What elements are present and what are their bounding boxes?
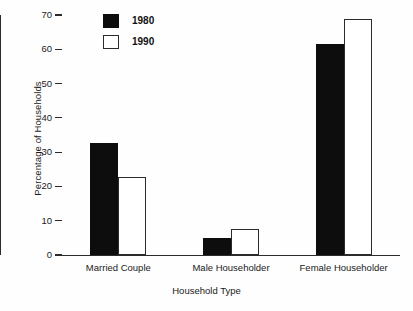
legend-item-1980: 1980 — [103, 12, 154, 29]
bar-1990-male-householder — [231, 229, 259, 255]
y-axis-tick-label: 30 — [16, 146, 52, 157]
legend-item-1990: 1990 — [103, 33, 154, 50]
legend: 1980 1990 — [103, 12, 154, 54]
y-axis-tick-label: 0 — [16, 249, 52, 260]
y-axis-tick-label: 40 — [16, 112, 52, 123]
y-axis-tick — [55, 117, 62, 118]
bar-1990-female-householder — [344, 19, 372, 255]
x-axis-label-male-householder: Male Householder — [192, 262, 269, 273]
bar-chart: Percentage of Households 010203040506070… — [0, 0, 413, 311]
y-axis-tick — [55, 14, 62, 15]
y-axis-tick — [55, 152, 62, 153]
legend-swatch-filled-icon — [103, 14, 119, 28]
bar-1990-married-couple — [118, 177, 146, 255]
y-axis-title: Percentage of Households — [32, 39, 43, 239]
y-axis-line — [0, 15, 1, 255]
x-axis-label-female-householder: Female Householder — [300, 262, 388, 273]
y-axis-tick — [55, 254, 62, 255]
y-axis-tick — [55, 49, 62, 50]
y-axis-tick-label: 20 — [16, 180, 52, 191]
y-axis-tick-label: 60 — [16, 43, 52, 54]
x-axis-label-married-couple: Married Couple — [86, 262, 151, 273]
y-axis-tick-label: 50 — [16, 78, 52, 89]
bar-1980-male-householder — [203, 238, 231, 255]
y-axis-tick-label: 10 — [16, 215, 52, 226]
bar-1980-married-couple — [90, 143, 118, 255]
y-axis-tick — [55, 220, 62, 221]
x-axis-title: Household Type — [0, 285, 413, 296]
bar-1980-female-householder — [316, 44, 344, 255]
y-axis-tick — [55, 83, 62, 84]
legend-swatch-hollow-icon — [103, 35, 119, 49]
y-axis-tick — [55, 186, 62, 187]
legend-label-1990: 1990 — [132, 36, 154, 47]
legend-label-1980: 1980 — [132, 15, 154, 26]
y-axis-tick-label: 70 — [16, 9, 52, 20]
